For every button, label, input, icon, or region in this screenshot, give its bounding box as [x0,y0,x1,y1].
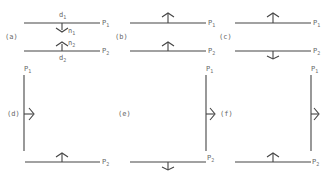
plane-label-d-p2: P2 [102,159,109,168]
plane-label-b-p2: P2 [208,48,215,57]
plane-label-a-p2: P2 [102,48,109,57]
plane-label-c-p2: P2 [313,48,320,57]
plane-label-d-p1: P1 [24,66,31,75]
panel-d-lines [24,75,100,162]
plane-configurations-figure: (a) (b) (c) (d) (e) (f) d1 n1 n2 d2 P1 P… [0,0,328,175]
panel-label-c: (c) [219,34,232,41]
plane-label-b-p1: P1 [208,20,215,29]
plane-label-f-p1: P1 [311,66,318,75]
panel-label-e: (e) [118,111,131,118]
plane-label-e-p1: P1 [206,66,213,75]
plane-label-a-p1: P1 [102,20,109,29]
panel-c-lines [235,13,311,59]
distance-d2-label: d2 [59,55,66,64]
panel-label-d: (d) [7,111,20,118]
distance-d1-label: d1 [59,12,66,21]
plane-label-e-p2: P2 [207,155,214,164]
plane-label-f-p2: P2 [312,159,319,168]
plane-label-c-p1: P1 [313,20,320,29]
normal-n1-label: n1 [68,28,75,37]
panel-b-lines [130,13,206,51]
panel-a-lines [24,23,100,51]
normal-n2-label: n2 [68,40,75,49]
panel-label-a: (a) [5,34,18,41]
panel-f-lines [235,75,319,162]
panel-label-f: (f) [220,111,233,118]
panel-label-b: (b) [115,34,128,41]
panel-e-lines [130,75,215,170]
diagram-lines [0,0,328,175]
